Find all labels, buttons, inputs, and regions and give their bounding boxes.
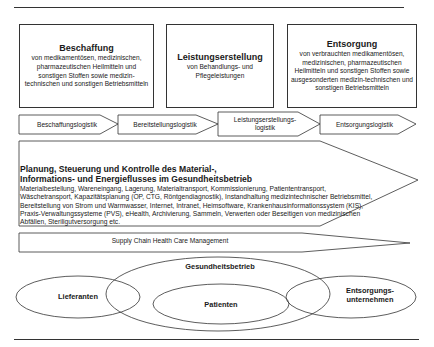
label-disposal-logistics: Entsorgungslogistik [322, 121, 407, 129]
label-service-logistics: Leistungserstellungs-logistik [226, 116, 304, 132]
label-suppliers: Lieferanten [40, 292, 116, 301]
label-procurement-logistics: Beschaffungslogistik [22, 121, 112, 129]
label-health-facility: Gesundheitsbetrieb [170, 262, 270, 271]
planning-block: Planung, Steuerung und Kontrolle des Mat… [20, 164, 375, 226]
label-disposal-companies-line2: unternehmen [330, 295, 410, 304]
label-disposal-companies-line1: Entsorgungs- [330, 286, 410, 295]
planning-text: Materialbestellung, Wareneingang, Lageru… [20, 185, 375, 226]
planning-title-line2: Informations- und Energieflusses im Gesu… [20, 174, 375, 184]
label-provision-logistics: Bereitstellungslogistik [120, 121, 210, 129]
scm-label: Supply Chain Health Care Management [20, 237, 320, 244]
planning-title-line1: Planung, Steuerung und Kontrolle des Mat… [20, 164, 375, 174]
label-patients: Patienten [181, 300, 261, 309]
